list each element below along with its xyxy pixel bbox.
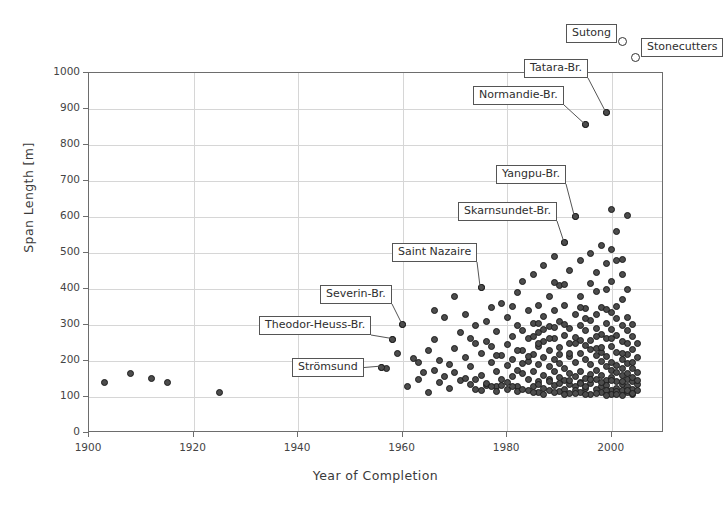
data-point (525, 353, 532, 360)
data-point (551, 324, 558, 331)
data-point (519, 360, 526, 367)
data-point (556, 380, 563, 387)
data-point (504, 341, 511, 348)
x-axis-title: Year of Completion (88, 468, 663, 483)
data-point (478, 372, 485, 379)
data-point (441, 314, 448, 321)
data-point (535, 381, 542, 388)
gridline-x-1980 (507, 73, 508, 431)
data-point (478, 350, 485, 357)
gridline-y-700 (89, 181, 662, 182)
gridline-y-100 (89, 397, 662, 398)
x-tick-label-1960: 1960 (378, 441, 426, 453)
y-tick-label-900: 900 (40, 102, 80, 112)
data-point (462, 354, 469, 361)
highlighted-point-saint-nazaire (478, 284, 485, 291)
data-point (514, 289, 521, 296)
data-point (551, 279, 558, 286)
x-tick-mark-1900 (88, 432, 89, 437)
y-tick-label-0: 0 (40, 426, 80, 436)
data-point (446, 385, 453, 392)
data-point (467, 363, 474, 370)
data-point (530, 333, 537, 340)
data-point (530, 389, 537, 396)
data-point (608, 246, 615, 253)
data-point (598, 344, 605, 351)
data-point (504, 362, 511, 369)
data-point (556, 344, 563, 351)
gridline-y-500 (89, 253, 662, 254)
x-tick-mark-1980 (506, 432, 507, 437)
data-point (546, 378, 553, 385)
data-point (577, 380, 584, 387)
x-tick-label-1980: 1980 (482, 441, 530, 453)
x-tick-mark-1920 (193, 432, 194, 437)
data-point (608, 335, 615, 342)
highlighted-point-yangpu-br (572, 213, 579, 220)
data-point (598, 242, 605, 249)
data-point (619, 256, 626, 263)
data-point (509, 333, 516, 340)
data-point (436, 357, 443, 364)
data-point (457, 329, 464, 336)
x-tick-label-2000: 2000 (587, 441, 635, 453)
data-point (608, 278, 615, 285)
data-point (540, 262, 547, 269)
data-point (164, 379, 171, 386)
gridline-y-800 (89, 145, 662, 146)
data-point (127, 370, 134, 377)
data-point (613, 315, 620, 322)
data-point (519, 278, 526, 285)
data-point (582, 391, 589, 398)
data-point (431, 307, 438, 314)
data-point (101, 379, 108, 386)
data-point (624, 286, 631, 293)
data-point (566, 267, 573, 274)
data-point (431, 336, 438, 343)
data-point (634, 340, 641, 347)
y-tick-label-1000: 1000 (40, 66, 80, 76)
data-point (546, 293, 553, 300)
data-point (415, 359, 422, 366)
y-tick-label-100: 100 (40, 390, 80, 400)
x-tick-label-1900: 1900 (64, 441, 112, 453)
data-point (551, 253, 558, 260)
highlighted-point-severin-br (399, 321, 406, 328)
data-point (540, 313, 547, 320)
data-point (546, 335, 553, 342)
data-point (587, 250, 594, 257)
highlighted-point-tatara-br (603, 109, 610, 116)
data-point (546, 347, 553, 354)
data-point (577, 293, 584, 300)
data-point (446, 361, 453, 368)
data-point (493, 368, 500, 375)
data-point (577, 368, 584, 375)
data-point (629, 390, 636, 397)
annotation-label-normandie-br: Normandie-Br. (473, 86, 564, 105)
data-point (535, 320, 542, 327)
data-point (436, 379, 443, 386)
y-tick-label-700: 700 (40, 174, 80, 184)
data-point (613, 228, 620, 235)
data-point (572, 340, 579, 347)
data-point (498, 300, 505, 307)
data-point (603, 286, 610, 293)
data-point (415, 376, 422, 383)
data-point (394, 350, 401, 357)
data-point (629, 346, 636, 353)
data-point (493, 388, 500, 395)
x-tick-mark-1960 (402, 432, 403, 437)
gridline-x-1940 (298, 73, 299, 431)
annotation-label-stonecutters: Stonecutters (641, 38, 723, 57)
highlighted-point-skarnsundet-br (561, 239, 568, 246)
data-point (425, 347, 432, 354)
data-point (613, 303, 620, 310)
data-point (451, 293, 458, 300)
x-tick-label-1940: 1940 (273, 441, 321, 453)
highlighted-point-normandie-br (582, 121, 589, 128)
gridline-x-1920 (194, 73, 195, 431)
data-point (551, 307, 558, 314)
y-tick-label-600: 600 (40, 210, 80, 220)
data-point (561, 302, 568, 309)
data-point (525, 307, 532, 314)
